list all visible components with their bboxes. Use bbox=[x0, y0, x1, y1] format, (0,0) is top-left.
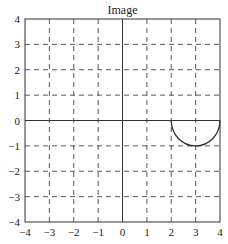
y-tick-label: −3 bbox=[8, 191, 20, 203]
x-tick-label: 4 bbox=[217, 226, 223, 238]
x-tick-label: 1 bbox=[144, 226, 150, 238]
chart-title: Image bbox=[108, 3, 138, 17]
half-ellipse-curve bbox=[171, 121, 220, 146]
y-tick-label: 3 bbox=[15, 38, 21, 50]
x-tick-label: −3 bbox=[44, 226, 56, 238]
y-tick-label: 0 bbox=[15, 115, 21, 127]
y-tick-label: 1 bbox=[15, 89, 21, 101]
x-tick-label: −1 bbox=[92, 226, 104, 238]
y-tick-label: −2 bbox=[8, 165, 20, 177]
y-tick-label: −1 bbox=[8, 140, 20, 152]
x-tick-label: 0 bbox=[120, 226, 126, 238]
y-tick-label: 2 bbox=[15, 64, 21, 76]
x-tick-label: 2 bbox=[169, 226, 175, 238]
y-tick-label: −4 bbox=[8, 216, 20, 228]
chart: −4−3−2−101234−4−3−2−101234Image bbox=[0, 0, 228, 244]
x-tick-label: −2 bbox=[68, 226, 80, 238]
x-tick-label: −4 bbox=[19, 226, 31, 238]
x-tick-label: 3 bbox=[193, 226, 199, 238]
y-tick-label: 4 bbox=[15, 13, 21, 25]
